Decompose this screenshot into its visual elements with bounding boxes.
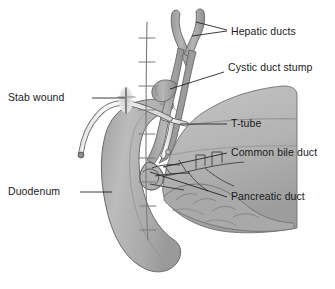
t-tube-eyelet bbox=[166, 150, 171, 155]
label-stab-wound: Stab wound bbox=[8, 92, 64, 103]
label-pancreatic-duct: Pancreatic duct bbox=[231, 191, 305, 202]
illustration-canvas bbox=[0, 0, 335, 289]
t-tube-tip bbox=[78, 152, 84, 158]
label-hepatic-ducts: Hepatic ducts bbox=[231, 26, 296, 37]
right-hepatic-duct bbox=[184, 9, 205, 58]
label-common-bile-duct: Common bile duct bbox=[231, 147, 317, 158]
label-t-tube: T-tube bbox=[231, 118, 261, 129]
anatomical-figure: Hepatic ducts Cystic duct stump T-tube C… bbox=[0, 0, 335, 289]
label-duodenum: Duodenum bbox=[8, 186, 60, 197]
label-cystic-duct-stump: Cystic duct stump bbox=[228, 62, 313, 73]
